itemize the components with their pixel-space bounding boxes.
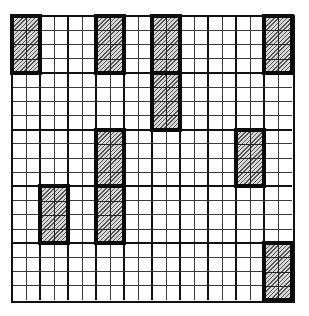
grid-outer-border [11, 15, 295, 303]
grid [12, 16, 292, 300]
diagram-canvas [0, 0, 309, 316]
